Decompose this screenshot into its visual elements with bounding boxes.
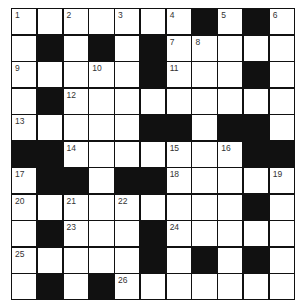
crossword-cell[interactable] xyxy=(244,221,268,246)
crossword-cell[interactable]: 8 xyxy=(192,36,216,61)
crossword-cell[interactable] xyxy=(270,36,294,61)
crossword-cell[interactable] xyxy=(218,221,242,246)
crossword-cell[interactable] xyxy=(218,195,242,220)
crossword-cell[interactable] xyxy=(244,274,268,299)
crossword-cell[interactable] xyxy=(64,274,88,299)
crossword-cell[interactable] xyxy=(167,89,191,114)
crossword-cell[interactable] xyxy=(89,115,113,140)
crossword-cell[interactable] xyxy=(12,89,36,114)
crossword-cell[interactable]: 13 xyxy=(12,115,36,140)
crossword-cell[interactable] xyxy=(64,248,88,273)
crossword-cell[interactable] xyxy=(270,274,294,299)
crossword-cell[interactable]: 25 xyxy=(12,248,36,273)
crossword-cell[interactable] xyxy=(218,36,242,61)
crossword-cell[interactable] xyxy=(38,62,62,87)
crossword-cell[interactable] xyxy=(64,62,88,87)
crossword-cell[interactable] xyxy=(218,62,242,87)
crossword-cell[interactable]: 7 xyxy=(167,36,191,61)
crossword-cell[interactable] xyxy=(192,142,216,167)
crossword-cell[interactable] xyxy=(141,274,165,299)
crossword-cell[interactable] xyxy=(115,115,139,140)
crossword-cell[interactable] xyxy=(64,36,88,61)
crossword-cell[interactable] xyxy=(192,115,216,140)
crossword-cell[interactable] xyxy=(89,9,113,34)
crossword-cell[interactable] xyxy=(192,89,216,114)
crossword-cell[interactable]: 9 xyxy=(12,62,36,87)
crossword-cell[interactable]: 21 xyxy=(64,195,88,220)
crossword-cell[interactable] xyxy=(12,274,36,299)
crossword-cell[interactable] xyxy=(270,62,294,87)
crossword-cell[interactable] xyxy=(38,115,62,140)
crossword-cell[interactable] xyxy=(244,89,268,114)
clue-number: 23 xyxy=(67,223,76,232)
crossword-cell[interactable] xyxy=(115,89,139,114)
crossword-cell[interactable]: 4 xyxy=(167,9,191,34)
crossword-cell[interactable]: 15 xyxy=(167,142,191,167)
crossword-cell[interactable]: 3 xyxy=(115,9,139,34)
crossword-cell[interactable]: 1 xyxy=(12,9,36,34)
crossword-cell[interactable] xyxy=(12,36,36,61)
clue-number: 9 xyxy=(15,64,20,73)
crossword-cell[interactable] xyxy=(270,221,294,246)
crossword-cell[interactable] xyxy=(270,115,294,140)
crossword-cell[interactable] xyxy=(89,248,113,273)
clue-number: 1 xyxy=(15,11,20,20)
crossword-cell[interactable] xyxy=(141,142,165,167)
crossword-cell[interactable] xyxy=(38,9,62,34)
crossword-cell[interactable] xyxy=(141,89,165,114)
crossword-cell[interactable]: 5 xyxy=(218,9,242,34)
crossword-cell[interactable] xyxy=(89,221,113,246)
crossword-cell[interactable]: 10 xyxy=(89,62,113,87)
clue-number: 12 xyxy=(67,91,76,100)
crossword-cell[interactable]: 2 xyxy=(64,9,88,34)
crossword-cell[interactable] xyxy=(38,195,62,220)
crossword-cell[interactable] xyxy=(270,195,294,220)
crossword-cell[interactable] xyxy=(115,62,139,87)
crossword-cell[interactable]: 23 xyxy=(64,221,88,246)
crossword-cell[interactable] xyxy=(89,89,113,114)
crossword-cell[interactable] xyxy=(192,221,216,246)
crossword-cell[interactable] xyxy=(270,89,294,114)
black-square xyxy=(38,168,62,193)
crossword-cell[interactable] xyxy=(192,274,216,299)
crossword-cell[interactable]: 14 xyxy=(64,142,88,167)
crossword-cell[interactable] xyxy=(167,274,191,299)
crossword-cell[interactable]: 26 xyxy=(115,274,139,299)
crossword-cell[interactable] xyxy=(12,221,36,246)
crossword-cell[interactable] xyxy=(192,62,216,87)
crossword-cell[interactable] xyxy=(141,9,165,34)
crossword-cell[interactable] xyxy=(218,248,242,273)
crossword-cell[interactable]: 16 xyxy=(218,142,242,167)
crossword-cell[interactable] xyxy=(115,36,139,61)
crossword-cell[interactable] xyxy=(218,89,242,114)
crossword-cell[interactable]: 20 xyxy=(12,195,36,220)
crossword-cell[interactable] xyxy=(115,248,139,273)
crossword-cell[interactable] xyxy=(192,195,216,220)
crossword-cell[interactable]: 18 xyxy=(167,168,191,193)
crossword-cell[interactable] xyxy=(218,274,242,299)
crossword-cell[interactable] xyxy=(64,115,88,140)
crossword-cell[interactable] xyxy=(167,248,191,273)
crossword-cell[interactable] xyxy=(115,142,139,167)
black-square xyxy=(192,9,216,34)
crossword-cell[interactable] xyxy=(115,221,139,246)
crossword-cell[interactable] xyxy=(89,168,113,193)
crossword-cell[interactable] xyxy=(218,168,242,193)
crossword-cell[interactable] xyxy=(270,248,294,273)
crossword-cell[interactable]: 11 xyxy=(167,62,191,87)
crossword-cell[interactable]: 19 xyxy=(270,168,294,193)
crossword-cell[interactable] xyxy=(244,168,268,193)
crossword-cell[interactable]: 12 xyxy=(64,89,88,114)
crossword-cell[interactable] xyxy=(89,142,113,167)
crossword-cell[interactable]: 17 xyxy=(12,168,36,193)
crossword-cell[interactable] xyxy=(89,195,113,220)
crossword-cell[interactable]: 24 xyxy=(167,221,191,246)
crossword-cell[interactable] xyxy=(167,195,191,220)
crossword-cell[interactable] xyxy=(192,168,216,193)
crossword-cell[interactable]: 6 xyxy=(270,9,294,34)
crossword-cell[interactable] xyxy=(244,36,268,61)
clue-number: 25 xyxy=(15,250,24,259)
crossword-cell[interactable] xyxy=(38,248,62,273)
crossword-cell[interactable] xyxy=(141,195,165,220)
crossword-cell[interactable]: 22 xyxy=(115,195,139,220)
